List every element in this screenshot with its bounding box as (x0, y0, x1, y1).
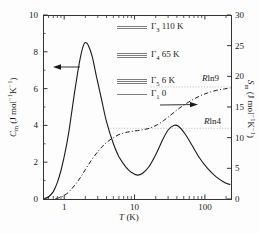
level-lines-icon (117, 79, 147, 84)
left-tick-label: 0 (34, 194, 39, 204)
legend-item-gamma5: Γ5 6 K (117, 74, 175, 88)
rln9-annotation: Rln9 (202, 73, 219, 83)
level-line (117, 94, 147, 95)
level-line (117, 83, 147, 84)
right-tick-label: 25 (235, 41, 245, 51)
left-axis-label: Cm (J mol−1K−1) (5, 78, 21, 137)
curve-entropy-Sm (55, 88, 230, 199)
legend-item-label: Γ1 0 (151, 88, 166, 100)
right-tick-label: 30 (235, 10, 245, 20)
level-line (117, 79, 147, 80)
left-tick-label: 2 (34, 157, 39, 167)
left-tick-label: 8 (34, 47, 39, 57)
axes-frame (43, 15, 231, 199)
right-axis-label: Sm (J mol−1K−1) (242, 80, 258, 138)
rln9-text: ln9 (208, 73, 220, 83)
level-line (117, 28, 147, 29)
rln4-annotation: Rln4 (204, 116, 221, 126)
x-tick-label: 1 (62, 202, 67, 212)
level-line (117, 26, 147, 27)
level-lines-icon (117, 26, 147, 29)
figure-canvas: { "figure": { "background": "#fdfdfd", "… (0, 0, 259, 234)
right-arrow-head (190, 102, 198, 107)
legend-item-gamma3: Γ3 110 K (117, 20, 184, 34)
legend-item-label: Γ3 110 K (151, 21, 184, 33)
legend-item-label: Γ4 65 K (151, 49, 179, 61)
rln4-text: ln4 (210, 116, 222, 126)
x-tick-label: 10 (130, 202, 140, 212)
legend-item-label: Γ5 6 K (151, 75, 175, 87)
right-tick-label: 5 (235, 163, 240, 173)
level-lines-icon (117, 94, 147, 95)
left-tick-label: 10 (29, 10, 39, 20)
right-tick-label: 0 (235, 194, 240, 204)
left-tick-label: 6 (34, 84, 39, 94)
legend-item-gamma1: Γ1 0 (117, 87, 166, 101)
left-arrow-head (53, 64, 61, 69)
curve-heat-capacity-Cm (44, 42, 230, 198)
x-axis-label: T (K) (107, 212, 151, 222)
level-lines-icon (117, 53, 147, 58)
left-tick-label: 4 (34, 120, 39, 130)
level-line (117, 57, 147, 58)
level-line (117, 81, 147, 82)
level-line (117, 55, 147, 56)
legend-item-gamma4: Γ4 65 K (117, 48, 179, 62)
x-tick-label: 100 (198, 202, 212, 212)
level-line (117, 53, 147, 54)
